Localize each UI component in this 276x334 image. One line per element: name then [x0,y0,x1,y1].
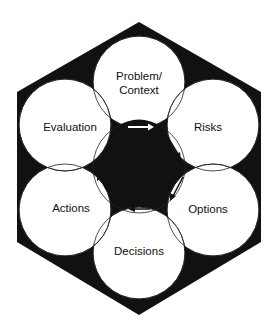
stakeholder-engagement-diagram: Engage Stakeholders Problem/ Context Ris… [0,0,276,334]
node-label-options: Options [188,203,228,215]
node-label-problem: Context [119,84,159,96]
node-label-problem: Problem/ [116,70,163,82]
node-label-evaluation: Evaluation [43,121,97,133]
center-label: Stakeholders [105,167,172,179]
node-label-risks: Risks [194,121,222,133]
node-label-decisions: Decisions [114,245,164,257]
node-label-actions: Actions [52,202,90,214]
center-label: Engage [119,153,159,165]
